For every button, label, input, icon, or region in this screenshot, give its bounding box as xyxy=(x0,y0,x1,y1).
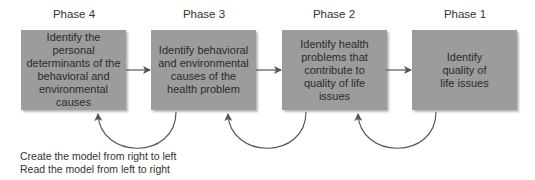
read-note: Read the model from left to right xyxy=(20,163,170,176)
create-note: Create the model from right to left xyxy=(20,150,176,163)
return-arrow-icon xyxy=(228,112,306,148)
return-arrow-icon xyxy=(358,112,436,148)
return-arrow-icon xyxy=(98,112,176,148)
